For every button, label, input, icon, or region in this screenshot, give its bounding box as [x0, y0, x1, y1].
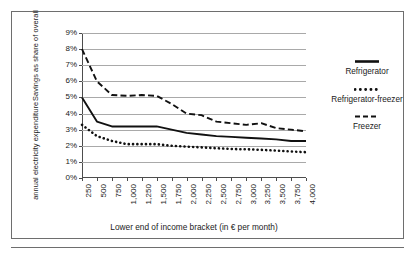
x-axis-tick-label: 3,750: [294, 184, 302, 204]
legend-entry: Freezer: [330, 112, 404, 132]
legend-label: Freezer: [330, 122, 404, 132]
x-axis-tick-label: 2,000: [190, 184, 198, 204]
x-axis-tick-mark: [187, 178, 188, 181]
x-axis-tick-mark: [82, 178, 83, 181]
x-axis-tick-mark: [261, 178, 262, 181]
y-axis-tick-label: 9%: [55, 29, 77, 37]
chart-legend: RefrigeratorRefrigerator-freezerFreezer: [330, 57, 404, 140]
chart-figure: annual electricity expenditure Savings a…: [0, 0, 418, 263]
y-axis-tick-label: 8%: [55, 45, 77, 53]
x-axis-tick-mark: [306, 178, 307, 181]
y-axis-tick-label: 7%: [55, 61, 77, 69]
x-axis-tick-mark: [127, 178, 128, 181]
legend-entry: Refrigerator: [330, 57, 404, 77]
figure-bottom-rule: [11, 247, 404, 248]
x-axis-tick-label: 3,000: [250, 184, 258, 204]
x-axis-tick-label: 1,500: [160, 184, 168, 204]
y-axis-title-line-1: Savings as share of overall: [31, 10, 40, 101]
y-axis-tick-label: 0%: [55, 174, 77, 182]
series-line-refrigerator: [82, 97, 306, 141]
x-axis-tick-label: 250: [85, 184, 93, 198]
legend-label: Refrigerator: [330, 67, 404, 77]
x-axis-tick-label: 1,250: [145, 184, 153, 204]
x-axis-tick-label: 1,750: [175, 184, 183, 204]
legend-swatch-solid-icon: [330, 57, 404, 66]
legend-swatch-dashed-icon: [330, 112, 404, 121]
x-axis-tick-label: 3,250: [264, 184, 272, 204]
x-axis-tick-mark: [97, 178, 98, 181]
y-axis-tick-label: 2%: [55, 142, 77, 150]
legend-swatch-dotted-icon: [330, 85, 404, 94]
y-axis-tick-label: 5%: [55, 93, 77, 101]
legend-label: Refrigerator-freezer: [330, 95, 404, 105]
y-axis-tick-label: 3%: [55, 126, 77, 134]
legend-entry: Refrigerator-freezer: [330, 85, 404, 105]
x-axis-tick-label: 2,250: [205, 184, 213, 204]
y-axis-title: annual electricity expenditure Savings a…: [18, 30, 52, 180]
series-line-freezer: [82, 49, 306, 131]
x-axis-tick-mark: [216, 178, 217, 181]
x-axis-tick-mark: [231, 178, 232, 181]
series-lines: [82, 33, 306, 178]
y-axis-tick-label: 6%: [55, 77, 77, 85]
plot-area: 0%1%2%3%4%5%6%7%8%9% 2505007501,0001,250…: [82, 33, 306, 178]
x-axis-tick-label: 2,750: [235, 184, 243, 204]
x-axis-tick-label: 1,000: [130, 184, 138, 204]
x-axis-tick-mark: [291, 178, 292, 181]
y-axis-tick-label: 1%: [55, 158, 77, 166]
x-axis-tick-mark: [142, 178, 143, 181]
x-axis-tick-mark: [172, 178, 173, 181]
x-axis-tick-mark: [157, 178, 158, 181]
y-axis-title-line-2: annual electricity expenditure: [31, 102, 40, 200]
x-axis-tick-mark: [112, 178, 113, 181]
x-axis-tick-label: 750: [115, 184, 123, 198]
x-axis-tick-mark: [246, 178, 247, 181]
x-axis-tick-label: 4,000: [309, 184, 317, 204]
x-axis-tick-label: 500: [100, 184, 108, 198]
x-axis-tick-label: 2,500: [220, 184, 228, 204]
x-axis-title: Lower end of income bracket (in € per mo…: [82, 222, 306, 232]
x-axis-tick-mark: [276, 178, 277, 181]
x-axis-tick-label: 3,500: [279, 184, 287, 204]
x-axis-tick-mark: [202, 178, 203, 181]
y-axis-tick-label: 4%: [55, 110, 77, 118]
